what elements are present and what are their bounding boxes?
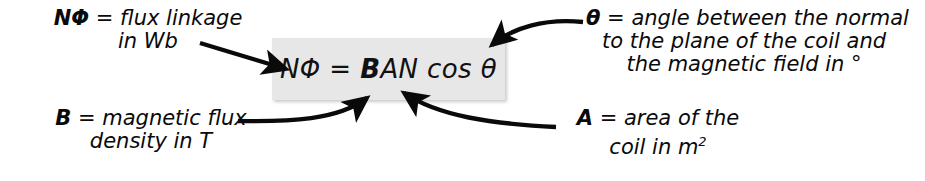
annotation-flux-linkage-text1: flux linkage — [120, 6, 242, 30]
annotation-area: A = area of the coil in m2 — [560, 107, 756, 159]
annotation-flux-density-symbol: B — [55, 106, 71, 130]
annotation-theta: θ = angle between the normal to the plan… — [586, 7, 902, 76]
annotation-theta-line1: θ = angle between the normal — [586, 7, 902, 30]
annotation-theta-text3: the magnetic field in ° — [586, 53, 902, 76]
formula-equation: NΦ = B AN cos θ — [272, 38, 505, 100]
formula-lhs: NΦ — [280, 54, 321, 84]
annotation-flux-density-text2: density in T — [45, 130, 257, 153]
annotation-flux-density-text1: magnetic flux — [102, 106, 246, 130]
annotation-theta-text1: angle between the normal — [631, 6, 909, 30]
annotation-area-text2: coil in m — [609, 135, 698, 159]
annotation-flux-linkage: NΦ = flux linkage in Wb — [48, 7, 248, 53]
annotation-area-line1: A = area of the — [560, 107, 756, 130]
arrow-flux-density-icon — [238, 98, 367, 121]
annotation-flux-density-equals: = — [71, 106, 102, 130]
annotation-flux-density: B = magnetic flux density in T — [45, 107, 257, 153]
annotation-theta-symbol: θ — [586, 6, 600, 30]
formula-equals: = — [321, 54, 361, 84]
formula-an-term: AN — [380, 54, 418, 84]
annotation-area-symbol: A — [577, 106, 593, 130]
annotation-area-equals: = — [593, 106, 624, 130]
annotation-flux-linkage-symbol: NΦ — [54, 6, 89, 30]
annotation-flux-linkage-equals: = — [89, 6, 120, 30]
annotation-theta-equals: = — [600, 6, 631, 30]
arrow-theta-icon — [492, 21, 583, 45]
annotation-flux-linkage-text2: in Wb — [48, 30, 248, 53]
annotation-flux-linkage-line1: NΦ = flux linkage — [48, 7, 248, 30]
annotation-theta-text2: to the plane of the coil and — [586, 30, 902, 53]
annotation-area-line2: coil in m2 — [560, 130, 756, 159]
formula-cos — [418, 54, 427, 84]
formula-theta-spacer — [472, 54, 481, 84]
annotation-flux-density-line1: B = magnetic flux — [45, 107, 257, 130]
flux-linkage-figure: NΦ = B AN cos θ NΦ = flux linkage in Wb … — [0, 0, 925, 181]
annotation-area-exponent: 2 — [698, 134, 706, 149]
formula-cos-label: cos — [427, 54, 472, 84]
formula-theta: θ — [481, 54, 497, 84]
annotation-area-text1: area of the — [624, 106, 739, 130]
formula-b-term: B — [360, 54, 380, 84]
